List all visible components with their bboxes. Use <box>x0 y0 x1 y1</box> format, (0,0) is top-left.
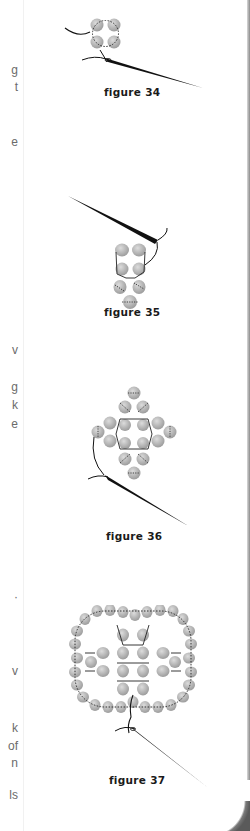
figure-35-illustration <box>60 190 180 320</box>
figure-34-caption: figure 34 <box>104 86 160 98</box>
text-fragment: g <box>0 64 18 76</box>
text-fragment: k <box>0 722 18 734</box>
figure-35-caption: figure 35 <box>104 306 160 318</box>
text-fragment: · <box>0 591 18 603</box>
text-fragment: v <box>0 665 18 677</box>
figure-34-illustration <box>60 10 210 90</box>
figure-37-caption: figure 37 <box>109 774 165 786</box>
figure-36-illustration <box>80 385 200 525</box>
text-fragment: e <box>0 136 18 148</box>
page-edge-shadow <box>247 0 250 780</box>
text-fragment: v <box>0 344 18 356</box>
text-fragment: of <box>0 740 18 752</box>
text-fragment: k <box>0 399 18 411</box>
book-page: g t e v g k e · v k of n ls <box>0 0 250 831</box>
text-fragment: g <box>0 381 18 393</box>
text-fragment: ls <box>0 789 18 801</box>
figure-36-caption: figure 36 <box>106 530 162 542</box>
page-corner-curl <box>210 801 250 831</box>
text-fragment: n <box>0 757 18 769</box>
text-fragment: t <box>0 81 18 93</box>
figure-37-illustration <box>65 605 215 795</box>
left-column-text-fragments: g t e v g k e · v k of n ls <box>0 0 24 831</box>
column-divider <box>23 0 24 831</box>
text-fragment: e <box>0 418 18 430</box>
